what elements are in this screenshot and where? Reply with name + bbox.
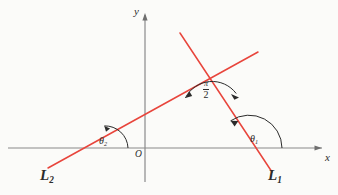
axes-group xyxy=(8,13,322,182)
line-L2-symbol: L xyxy=(40,167,49,183)
line-L1-symbol: L xyxy=(268,167,277,183)
theta2-label: θ2 xyxy=(99,136,107,146)
line-L2-label: L2 xyxy=(40,168,54,183)
theta1-subscript: 1 xyxy=(255,138,258,145)
x-axis-label: x xyxy=(325,152,330,163)
theta2-subscript: 2 xyxy=(104,140,107,147)
x-axis-arrowhead xyxy=(315,145,323,150)
right-angle-label: π 2 xyxy=(203,80,209,100)
line-L1-subscript: 1 xyxy=(277,175,282,185)
right-angle-arc-arrowhead-right xyxy=(231,94,239,100)
theta2-arc-arrowhead xyxy=(104,126,110,132)
theta2-arc-group xyxy=(104,126,128,148)
line-L2-subscript: 2 xyxy=(49,175,54,185)
figure-canvas xyxy=(0,0,338,195)
theta1-label: θ1 xyxy=(250,134,258,144)
right-angle-arc-group xyxy=(185,81,239,99)
line-L1-label: L1 xyxy=(268,168,282,183)
line-L2 xyxy=(48,52,258,168)
line-L2-group xyxy=(48,52,258,168)
y-axis-label: y xyxy=(134,6,139,17)
geometry-figure: y x O θ1 θ2 π 2 L1 L2 xyxy=(0,0,338,195)
line-L1-group xyxy=(180,33,272,172)
theta1-arc-arrowhead xyxy=(231,121,239,127)
y-axis-arrowhead xyxy=(142,13,147,21)
right-angle-arc xyxy=(185,81,236,97)
origin-label: O xyxy=(135,150,142,160)
line-L1 xyxy=(180,33,272,172)
right-angle-denominator: 2 xyxy=(203,90,209,101)
